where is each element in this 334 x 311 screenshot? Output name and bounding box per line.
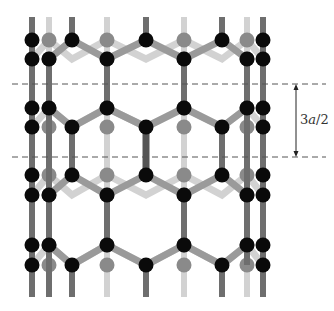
label-a: a — [308, 112, 316, 127]
label-half: /2 — [316, 112, 329, 127]
period-label: 3a/2 — [300, 112, 329, 127]
nanotube-lattice-diagram — [0, 0, 334, 311]
period-arrow — [294, 84, 299, 157]
